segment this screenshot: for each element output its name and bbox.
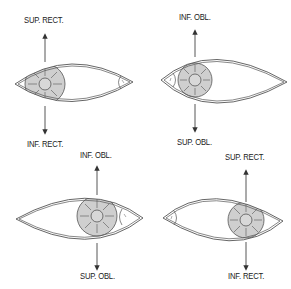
caruncle-icon (173, 73, 176, 87)
eye-bottom-left (16, 168, 143, 268)
label-bottom-right-up: SUP. RECT. (225, 152, 264, 162)
eye-muscle-action-diagram: SUP. RECT. INF. RECT. INF. OBL. SUP. OBL… (0, 0, 291, 289)
label-top-right-down: SUP. OBL. (177, 137, 212, 147)
label-top-left-up: SUP. RECT. (24, 15, 63, 25)
eye-top-left (15, 36, 133, 132)
iris-icon (228, 202, 264, 238)
label-bottom-left-up: INF. OBL. (80, 150, 112, 160)
caruncle-icon (120, 209, 123, 225)
eye-top-right (161, 32, 287, 130)
label-bottom-right-down: INF. RECT. (228, 271, 264, 281)
label-top-right-up: INF. OBL. (179, 12, 211, 22)
eye-bottom-right (163, 172, 283, 268)
label-top-left-down: INF. RECT. (27, 139, 63, 149)
label-bottom-left-down: SUP. OBL. (80, 271, 115, 281)
